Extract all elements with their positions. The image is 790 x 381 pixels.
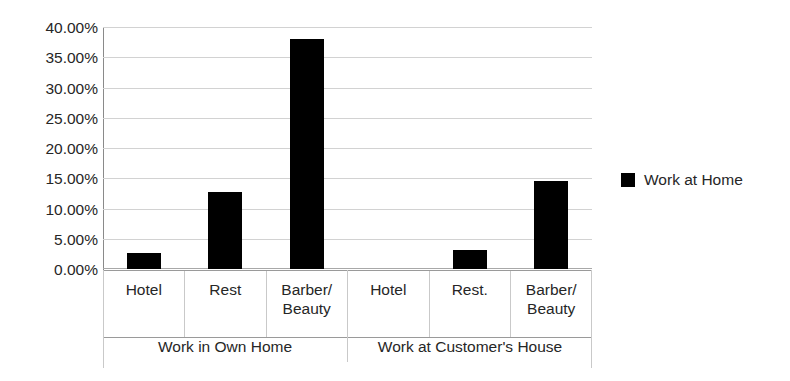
y-tick-label: 15.00% xyxy=(8,171,98,187)
bar-customer-barber[interactable] xyxy=(534,181,568,269)
y-tick-label: 10.00% xyxy=(8,202,98,218)
group-label-work-at-customers-house: Work at Customer's House xyxy=(348,336,592,368)
bar-slot xyxy=(429,27,511,269)
bar-slot xyxy=(103,27,185,269)
bar-own-home-rest[interactable] xyxy=(208,192,242,269)
category-label-customer-hotel: Hotel xyxy=(348,271,430,337)
y-tick-label: 40.00% xyxy=(8,20,98,36)
bar-own-home-barber[interactable] xyxy=(290,39,324,269)
bar-slot xyxy=(266,27,348,269)
legend-label-work-at-home: Work at Home xyxy=(644,172,743,188)
y-tick-label: 0.00% xyxy=(8,262,98,278)
category-label-own-home-rest: Rest xyxy=(185,271,267,337)
y-tick-label: 25.00% xyxy=(8,111,98,127)
y-tick-label: 20.00% xyxy=(8,141,98,157)
category-label-own-home-barber: Barber/ Beauty xyxy=(266,271,348,337)
plot-area xyxy=(103,27,592,269)
legend-swatch-icon xyxy=(621,173,635,187)
y-tick-label: 35.00% xyxy=(8,50,98,66)
category-label-line1: Rest xyxy=(185,280,267,299)
category-label-own-home-hotel: Hotel xyxy=(103,271,185,337)
y-tick-label: 30.00% xyxy=(8,81,98,97)
category-label-line2: Beauty xyxy=(511,299,593,318)
bar-own-home-hotel[interactable] xyxy=(127,253,161,269)
bar-customer-rest[interactable] xyxy=(453,250,487,269)
category-label-customer-barber: Barber/ Beauty xyxy=(511,271,593,337)
bar-chart: 40.00% 35.00% 30.00% 25.00% 20.00% 15.00… xyxy=(0,0,790,381)
group-label-work-in-own-home: Work in Own Home xyxy=(103,336,347,368)
bar-slot xyxy=(511,27,593,269)
bar-slot xyxy=(185,27,267,269)
category-label-line1: Barber/ xyxy=(266,280,348,299)
y-tick-label: 5.00% xyxy=(8,232,98,248)
category-label-line1: Barber/ xyxy=(511,280,593,299)
legend: Work at Home xyxy=(621,172,743,188)
group-axis-band: Work in Own Home Work at Customer's Hous… xyxy=(103,336,592,368)
bar-slot xyxy=(348,27,430,269)
category-label-line2: Beauty xyxy=(266,299,348,318)
category-label-line1: Hotel xyxy=(103,280,185,299)
category-label-line1: Hotel xyxy=(348,280,430,299)
category-label-line1: Rest. xyxy=(429,280,511,299)
category-label-customer-rest: Rest. xyxy=(429,271,511,337)
